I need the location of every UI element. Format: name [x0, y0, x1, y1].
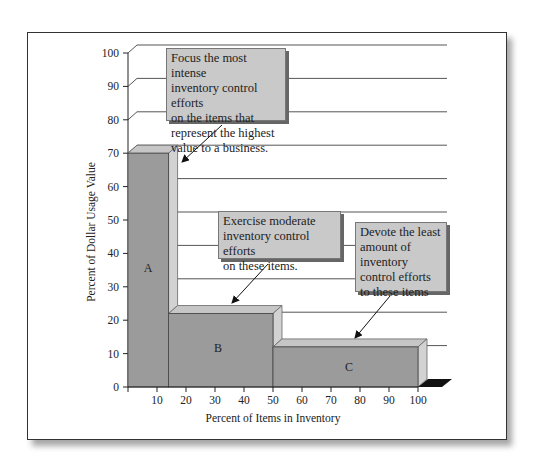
y-tick-label: 10 [108, 348, 120, 360]
x-tick-label: 70 [325, 394, 337, 406]
y-tick-label: 100 [102, 47, 120, 59]
bar-label-a: A [144, 261, 153, 275]
callout-class-c: Devote the leastamount ofinventorycontro… [355, 222, 447, 292]
callout-class-a: Focus the most intenseinventory control … [166, 48, 286, 121]
callout-line: inventory control efforts [223, 229, 336, 259]
callout-line: Devote the least [360, 225, 442, 240]
x-axis-title: Percent of Items in Inventory [206, 412, 341, 425]
bar-side-face [418, 339, 427, 387]
x-tick-label: 10 [151, 394, 163, 406]
x-tick-label: 30 [209, 394, 221, 406]
x-tick-label: 80 [354, 394, 366, 406]
y-tick-label: 80 [108, 114, 120, 126]
callout-class-b: Exercise moderateinventory control effor… [218, 211, 341, 259]
bar-label-c: C [345, 360, 353, 374]
callout-c-arrow [355, 296, 390, 338]
bar-top-face [169, 306, 282, 314]
x-tick-label: 50 [267, 394, 279, 406]
y-tick-label: 20 [108, 314, 120, 326]
callout-line: inventory control efforts [171, 81, 281, 111]
callout-line: amount of [360, 240, 442, 255]
y-tick-label: 30 [108, 281, 120, 293]
y-tick-label: 0 [113, 381, 119, 393]
x-tick-label: 90 [383, 394, 395, 406]
y-tick-label: 40 [108, 247, 120, 259]
x-tick-label: 20 [180, 394, 192, 406]
callout-line: on these items. [223, 259, 336, 274]
callout-line: value to a business. [171, 141, 281, 156]
bar-label-b: B [214, 341, 222, 355]
x-tick-label: 60 [296, 394, 308, 406]
callout-line: represent the highest [171, 126, 281, 141]
y-tick-label: 90 [108, 80, 120, 92]
bar-top-face [273, 339, 427, 347]
callout-line: Focus the most intense [171, 51, 281, 81]
y-tick-label: 70 [108, 147, 120, 159]
x-tick-label: 40 [238, 394, 250, 406]
callout-line: on the items that [171, 111, 281, 126]
y-tick-label: 50 [108, 214, 120, 226]
callout-line: Exercise moderate [223, 214, 336, 229]
y-tick-label: 60 [108, 181, 120, 193]
bar-side-face [169, 145, 178, 313]
y-axis-title: Percent of Dollar Usage Value [85, 162, 98, 302]
callout-line: to these items [360, 285, 442, 300]
callout-line: inventory [360, 255, 442, 270]
x-tick-label: 100 [409, 394, 427, 406]
callout-line: control efforts [360, 270, 442, 285]
